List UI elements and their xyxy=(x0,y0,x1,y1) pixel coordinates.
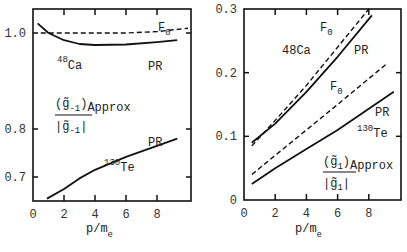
right-pr-ca-label: PR xyxy=(354,44,368,58)
svg-text:0.2: 0.2 xyxy=(215,67,237,81)
series-line-130te-f0 xyxy=(252,63,388,174)
svg-text:4: 4 xyxy=(303,207,310,221)
right-te-label: 130Te xyxy=(357,124,388,141)
svg-text:0.7: 0.7 xyxy=(4,171,26,185)
svg-text:(g̃-1)Approx: (g̃-1)Approx xyxy=(55,97,131,115)
svg-text:8: 8 xyxy=(153,208,160,222)
left-f0-label: F0 xyxy=(158,21,171,38)
series-line-48ca-f0 xyxy=(252,9,369,146)
svg-text:0: 0 xyxy=(240,207,247,221)
svg-text:2: 2 xyxy=(272,207,279,221)
right-ratio-label: (g̃1)Approx |g̃1| xyxy=(323,155,393,193)
svg-text:0.1: 0.1 xyxy=(215,130,237,144)
left-x-axis-label: p/me xyxy=(86,222,113,240)
right-f0-ca-label: F0 xyxy=(320,21,333,38)
right-pr-te-label: PR xyxy=(375,106,389,120)
svg-text:6: 6 xyxy=(122,208,129,222)
right-x-axis-label: p/me xyxy=(295,222,322,240)
svg-text:|g̃1|: |g̃1| xyxy=(323,177,350,193)
svg-text:(g̃1)Approx: (g̃1)Approx xyxy=(323,155,393,173)
chart-figure: 024680.70.81.0 F0 48Ca PR (g̃-1)Approx |… xyxy=(0,0,407,252)
left-pr-ca-label: PR xyxy=(148,60,162,74)
svg-text:0.8: 0.8 xyxy=(4,123,26,137)
svg-text:6: 6 xyxy=(334,207,341,221)
right-panel: 0246800.10.20.3 F0 48Ca PR F0 PR 130Te (… xyxy=(215,3,401,240)
right-f0-te-label: F0 xyxy=(330,80,343,97)
series-line-48ca-pr xyxy=(38,23,178,45)
svg-text:0: 0 xyxy=(230,194,237,208)
left-te-label: 130Te xyxy=(104,158,135,175)
svg-text:0.3: 0.3 xyxy=(215,3,237,17)
left-ratio-label: (g̃-1)Approx |g̃-1| xyxy=(55,97,131,136)
right-ca-label: 48Ca xyxy=(282,44,311,58)
svg-text:|g̃-1|: |g̃-1| xyxy=(55,120,87,136)
left-pr-te-label: PR xyxy=(148,136,162,150)
svg-text:0: 0 xyxy=(29,208,36,222)
svg-text:8: 8 xyxy=(365,207,372,221)
svg-text:1.0: 1.0 xyxy=(4,27,26,41)
svg-text:4: 4 xyxy=(91,208,98,222)
svg-text:2: 2 xyxy=(60,208,67,222)
left-panel: 024680.70.81.0 F0 48Ca PR (g̃-1)Approx |… xyxy=(4,9,191,240)
left-ca-label: 48Ca xyxy=(57,55,82,73)
